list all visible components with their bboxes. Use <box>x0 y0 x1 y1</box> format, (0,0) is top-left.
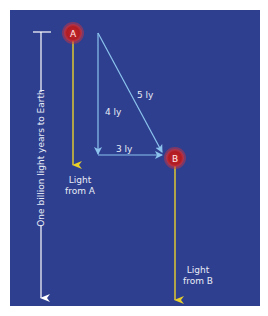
vertical-distance-label: 4 ly <box>105 107 122 117</box>
light-from-a-label-line1: Light <box>69 175 92 185</box>
star-a: A <box>62 22 84 44</box>
light-from-b-label-line1: Light <box>187 265 210 275</box>
star-b: B <box>164 147 186 169</box>
light-from-b-label-line2: from B <box>183 276 213 286</box>
diagram-stage: One billion light years to Earth Light f… <box>0 0 268 316</box>
diagonal-distance-label: 5 ly <box>137 90 154 100</box>
horizontal-distance-label: 3 ly <box>116 144 133 154</box>
panel-background <box>10 10 260 306</box>
light-from-a-label-line2: from A <box>65 186 96 196</box>
star-a-label: A <box>70 29 77 39</box>
scale-bar-label: One billion light years to Earth <box>36 89 46 226</box>
light-travel-diagram: One billion light years to Earth Light f… <box>0 0 268 316</box>
star-b-label: B <box>172 154 178 164</box>
